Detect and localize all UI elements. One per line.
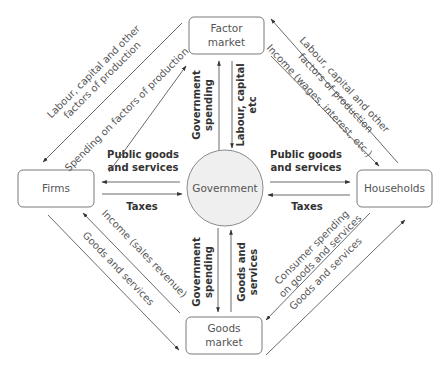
gov-factor-down-label: Labour, capital etc [235,63,258,146]
circular-flow-diagram: Factor market Firms Households Goods mar… [0,0,445,370]
svg-text:spending: spending [203,246,214,298]
factor-market-label-1: Factor [210,22,243,34]
svg-text:Government: Government [191,70,202,140]
households-gov-taxes-label: Taxes [291,201,323,212]
svg-text:Labour, capital: Labour, capital [235,63,246,146]
government-label: Government [192,182,257,194]
firms-factor-outer-label: Labour, capital and other factors of pro… [45,22,151,128]
firms-label: Firms [42,182,70,194]
svg-text:Consumer spending: Consumer spending [272,208,351,287]
gov-firms-public-label-2: and services [108,162,179,173]
firms-goods-inner-label: Income (sales revenue) [100,208,190,300]
svg-text:Income (sales revenue): Income (sales revenue) [100,208,190,300]
svg-text:services: services [248,249,259,295]
firms-to-goods-arrow [48,215,179,350]
svg-text:spending: spending [203,79,214,131]
gov-households-public-label-1: Public goods [270,149,342,160]
svg-text:Goods and: Goods and [236,242,247,302]
factor-market-node: Factor market [189,17,264,54]
svg-text:Government: Government [191,237,202,307]
goods-market-label-2: market [205,336,242,348]
gov-households-public-label-2: and services [271,162,342,173]
households-node: Households [357,170,432,207]
goods-to-firms-income-arrow [83,213,180,313]
factor-market-label-2: market [208,36,245,48]
government-node: Government [187,150,263,226]
firms-gov-taxes-label: Taxes [126,201,158,212]
gov-firms-public-label-1: Public goods [107,149,179,160]
gov-factor-up-label: Government spending [191,70,214,140]
goods-market-label-1: Goods [207,322,240,334]
svg-text:etc: etc [247,96,258,114]
firms-node: Firms [18,170,94,207]
firms-goods-outer-label: Goods and services [81,230,157,308]
goods-market-node: Goods market [186,317,262,354]
gov-goods-down-label: Government spending [191,237,214,307]
households-label: Households [364,182,425,194]
gov-goods-up-label: Goods and services [236,242,259,302]
svg-text:Goods and services: Goods and services [81,230,157,308]
